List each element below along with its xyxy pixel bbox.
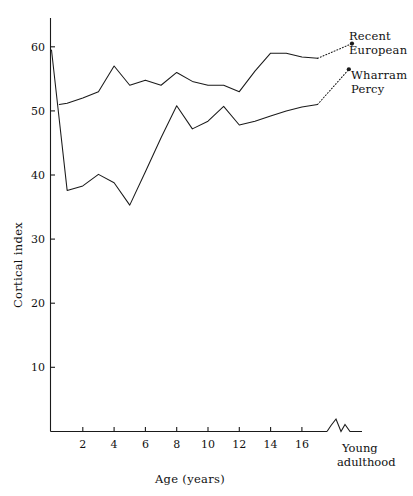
axis-break-zigzag-icon [327, 419, 362, 432]
x-tick-label-10: 10 [201, 438, 215, 451]
series-label-recent-european-line2: European [349, 43, 408, 57]
y-tick-label-60: 60 [31, 41, 45, 54]
series-wharram-percy: Wharram Percy [52, 50, 408, 205]
axis-break-label-line2: adulthood [337, 455, 396, 469]
x-tick-label-4: 4 [111, 438, 118, 451]
chart-figure: 10 20 30 40 50 60 2 4 6 8 10 12 14 [0, 0, 413, 496]
series-line-recent-european [59, 53, 317, 104]
x-tick-label-12: 12 [232, 438, 246, 451]
y-ticks [51, 47, 56, 368]
line-chart: 10 20 30 40 50 60 2 4 6 8 10 12 14 [0, 0, 413, 496]
series-dotted-tail-recent-european [318, 44, 352, 59]
x-ticks [83, 427, 302, 432]
y-axis-title: Cortical index [11, 222, 25, 308]
y-tick-labels: 10 20 30 40 50 60 [31, 41, 45, 374]
y-tick-label-50: 50 [31, 105, 45, 118]
series-label-recent-european-line1: Recent [349, 29, 391, 43]
y-tick-label-40: 40 [31, 169, 45, 182]
x-tick-labels: 2 4 6 8 10 12 14 16 [79, 438, 309, 451]
series-label-wharram-percy-line2: Percy [351, 82, 385, 96]
series-dotted-tail-wharram-percy [318, 69, 349, 104]
x-tick-label-14: 14 [264, 438, 278, 451]
y-tick-label-20: 20 [31, 297, 45, 310]
series-label-wharram-percy-line1: Wharram [351, 68, 407, 82]
x-tick-label-2: 2 [79, 438, 86, 451]
series-line-wharram-percy [52, 50, 318, 205]
x-axis-title: Age (years) [154, 472, 225, 486]
y-tick-label-10: 10 [31, 361, 45, 374]
x-tick-label-16: 16 [295, 438, 309, 451]
x-tick-label-8: 8 [173, 438, 180, 451]
x-tick-label-6: 6 [142, 438, 149, 451]
axis-break-label-line1: Young [341, 441, 378, 455]
y-tick-label-30: 30 [31, 233, 45, 246]
